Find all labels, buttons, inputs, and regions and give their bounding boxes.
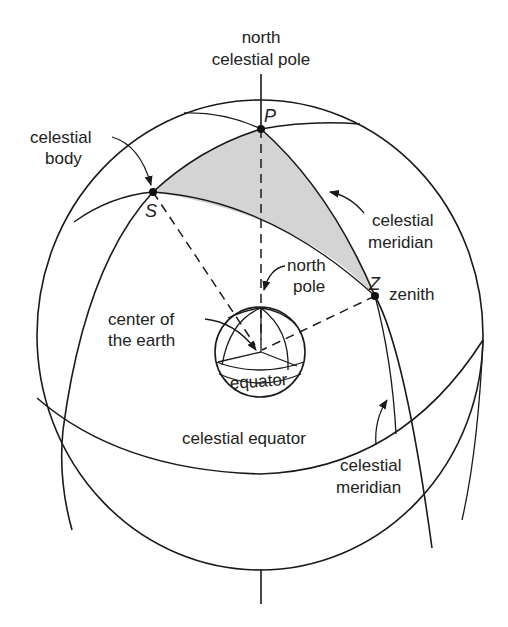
label-celestial-body-1: celestial — [30, 128, 91, 147]
label-celestial-body-2: body — [45, 149, 82, 168]
vertical-circle-through-Z — [375, 296, 396, 434]
label-north-celestial-pole-2: celestial pole — [212, 50, 310, 69]
astronomical-triangle-shading — [153, 129, 375, 296]
label-point-Z: Z — [368, 274, 381, 294]
leader-north-pole — [264, 266, 285, 290]
label-celestial-meridian-upper-1: celestial — [372, 211, 433, 230]
label-point-S: S — [145, 201, 157, 221]
point-P-marker — [257, 125, 265, 133]
label-celestial-meridian-lower-2: meridian — [336, 478, 401, 497]
label-celestial-meridian-upper-2: meridian — [368, 233, 433, 252]
label-zenith: zenith — [389, 285, 434, 304]
label-center-of-earth-2: the earth — [108, 331, 175, 350]
point-S-marker — [149, 188, 157, 196]
celestial-equator — [37, 340, 483, 474]
label-point-P: P — [264, 106, 276, 126]
label-north-pole-2: pole — [293, 277, 325, 296]
label-celestial-meridian-lower-1: celestial — [340, 456, 401, 475]
celestial-sphere-diagram: north celestial pole P S Z celestial bod… — [0, 0, 508, 627]
right-great-circle — [462, 340, 483, 520]
parallel-arc-upper-left — [184, 113, 261, 129]
leader-celestial-meridian-upper — [330, 192, 364, 213]
label-center-of-earth-1: center of — [108, 310, 174, 329]
label-celestial-equator: celestial equator — [182, 429, 306, 448]
leader-celestial-body — [112, 137, 151, 185]
dashed-line-Z-to-center — [262, 296, 375, 350]
label-equator: equator — [229, 370, 288, 393]
label-north-pole-1: north — [287, 256, 326, 275]
label-north-celestial-pole-1: north — [242, 28, 281, 47]
